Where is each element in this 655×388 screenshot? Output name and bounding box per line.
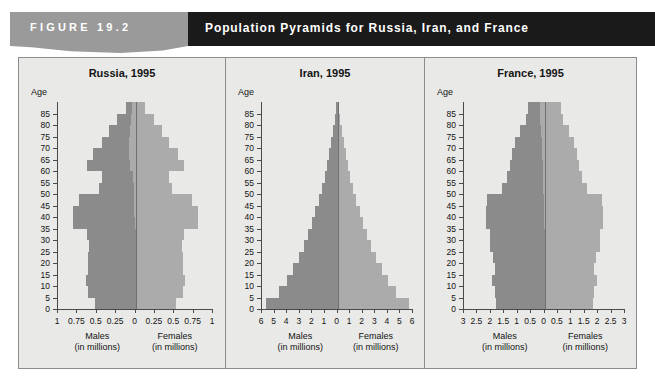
- female-bar: [338, 275, 388, 287]
- x-tick-mark: [154, 309, 155, 313]
- y-tick-label: 35: [432, 224, 456, 233]
- x-tick-mark: [286, 309, 287, 313]
- x-tick-label: 1.5: [497, 316, 509, 326]
- male-bar: [279, 286, 338, 298]
- x-tick-label: 0: [334, 316, 339, 326]
- x-tick-mark: [57, 309, 58, 313]
- female-bar: [136, 286, 183, 298]
- x-tick-mark: [584, 309, 585, 313]
- y-tick-label: 65: [26, 155, 50, 164]
- x-tick-mark: [299, 309, 300, 313]
- male-bar: [88, 252, 136, 264]
- female-bar: [545, 252, 595, 264]
- y-tick-mark: [257, 171, 261, 172]
- male-bar: [89, 240, 136, 252]
- female-bar: [136, 298, 176, 310]
- male-bar: [510, 160, 544, 172]
- male-bar: [287, 275, 339, 287]
- y-tick-label: 20: [230, 259, 254, 268]
- male-bar: [492, 275, 546, 287]
- y-tick-label: 30: [432, 236, 456, 245]
- figure-number-label: FIGURE 19.2: [30, 21, 131, 33]
- y-tick-mark: [257, 114, 261, 115]
- y-tick-label: 60: [432, 167, 456, 176]
- x-tick-mark: [490, 309, 491, 313]
- y-tick-label: 60: [26, 167, 50, 176]
- y-tick-label: 5: [432, 293, 456, 302]
- female-bar: [338, 252, 376, 264]
- y-tick-label: 5: [26, 293, 50, 302]
- x-tick-mark: [261, 309, 262, 313]
- x-tick-label: 0: [132, 316, 137, 326]
- y-tick-label: 50: [26, 190, 50, 199]
- y-tick-label: 85: [432, 109, 456, 118]
- y-tick-mark: [459, 206, 463, 207]
- x-tick-mark: [349, 309, 350, 313]
- female-bar: [338, 183, 353, 195]
- y-tick-mark: [257, 125, 261, 126]
- male-bar: [495, 263, 546, 275]
- plot-area-france: 051015202530354045505560657075808532.521…: [463, 102, 625, 310]
- x-tick-mark: [530, 309, 531, 313]
- female-bar: [545, 229, 600, 241]
- male-bar: [327, 160, 338, 172]
- x-tick-label: 1: [568, 316, 573, 326]
- x-tick-mark: [274, 309, 275, 313]
- male-bar: [493, 252, 545, 264]
- pyramid-panel-france: France, 1995 Age 05101520253035404550556…: [424, 58, 636, 368]
- male-bar: [495, 286, 546, 298]
- female-bar: [338, 263, 382, 275]
- x-tick-label: 3: [296, 316, 301, 326]
- y-tick-mark: [459, 148, 463, 149]
- female-bar: [134, 183, 173, 195]
- bars-france: [464, 102, 625, 309]
- male-bar: [325, 171, 338, 183]
- x-tick-label: 5: [271, 316, 276, 326]
- x-tick-mark: [193, 309, 194, 313]
- y-tick-mark: [53, 286, 57, 287]
- male-bar: [496, 298, 546, 310]
- y-tick-mark: [53, 275, 57, 276]
- female-bar: [338, 171, 351, 183]
- x-tick-mark: [76, 309, 77, 313]
- males-caption: Males(in millions): [75, 331, 121, 353]
- female-bar: [338, 194, 356, 206]
- x-tick-label: 2: [595, 316, 600, 326]
- center-axis-line: [136, 102, 137, 309]
- y-tick-label: 75: [230, 132, 254, 141]
- x-tick-mark: [476, 309, 477, 313]
- male-bar: [95, 298, 136, 310]
- y-tick-label: 35: [230, 224, 254, 233]
- y-tick-label: 80: [230, 121, 254, 130]
- y-tick-label: 30: [26, 236, 50, 245]
- x-tick-label: 1: [347, 316, 352, 326]
- y-tick-label: 55: [230, 178, 254, 187]
- y-tick-mark: [257, 137, 261, 138]
- males-caption-units: (in millions): [482, 342, 528, 353]
- x-tick-mark: [463, 309, 464, 313]
- age-axis-label-iran: Age: [238, 87, 254, 97]
- x-tick-label: 0.5: [551, 316, 563, 326]
- y-tick-mark: [257, 263, 261, 264]
- x-tick-mark: [387, 309, 388, 313]
- x-tick-label: 3: [622, 316, 627, 326]
- y-tick-label: 80: [26, 121, 50, 130]
- y-tick-label: 10: [230, 282, 254, 291]
- x-tick-mark: [362, 309, 363, 313]
- male-bar: [88, 263, 136, 275]
- male-bar: [87, 229, 136, 241]
- male-bar: [308, 229, 338, 241]
- female-bar: [543, 160, 579, 172]
- plot-area-iran: 0510152025303540455055606570758085654321…: [261, 102, 413, 310]
- y-tick-label: 10: [26, 282, 50, 291]
- female-bar: [546, 286, 595, 298]
- male-bar: [86, 275, 136, 287]
- y-tick-mark: [459, 183, 463, 184]
- x-tick-mark: [135, 309, 136, 313]
- age-axis-label-russia: Age: [31, 87, 47, 97]
- figure-title: Population Pyramids for Russia, Iran, an…: [205, 21, 529, 35]
- y-tick-label: 15: [230, 270, 254, 279]
- y-tick-label: 0: [432, 305, 456, 314]
- male-bar: [304, 240, 338, 252]
- male-bar: [102, 137, 129, 149]
